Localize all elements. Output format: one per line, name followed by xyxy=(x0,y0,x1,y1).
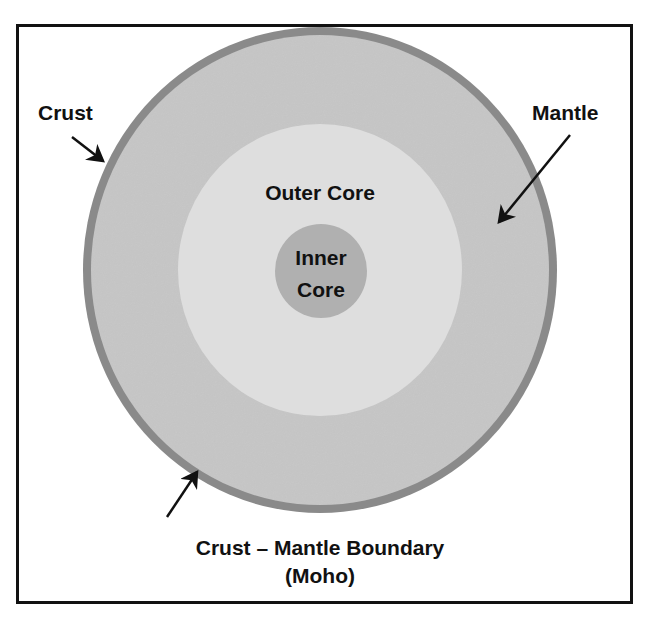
moho-label-line2: (Moho) xyxy=(285,564,355,587)
inner-core-layer xyxy=(275,224,367,318)
outer-core-label: Outer Core xyxy=(265,181,375,204)
inner-core-label-line1: Inner xyxy=(295,246,346,269)
crust-label: Crust xyxy=(38,101,93,124)
inner-core-label-line2: Core xyxy=(297,278,345,301)
earth-layers-diagram: Crust Mantle Outer Core Inner Core Crust… xyxy=(0,0,647,618)
mantle-label: Mantle xyxy=(532,101,599,124)
moho-label-line1: Crust – Mantle Boundary xyxy=(196,536,445,559)
